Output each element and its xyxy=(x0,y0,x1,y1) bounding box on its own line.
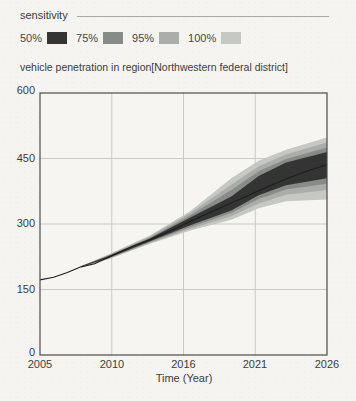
x-tick-2005: 2005 xyxy=(18,358,62,370)
y-tick-0: 0 xyxy=(0,346,35,358)
x-tick-2010: 2010 xyxy=(90,358,134,370)
y-tick-300: 300 xyxy=(0,217,35,229)
x-tick-2026: 2026 xyxy=(305,358,349,370)
y-tick-600: 600 xyxy=(0,84,35,96)
scanned-chart-page: sensitivity 50% 75% 95% 100% vehicle pen… xyxy=(0,0,356,401)
x-tick-2021: 2021 xyxy=(233,358,277,370)
y-tick-150: 150 xyxy=(0,283,35,295)
plot-svg xyxy=(0,0,356,401)
y-tick-450: 450 xyxy=(0,152,35,164)
x-tick-2016: 2016 xyxy=(162,358,206,370)
x-axis-label: Time (Year) xyxy=(133,372,235,384)
